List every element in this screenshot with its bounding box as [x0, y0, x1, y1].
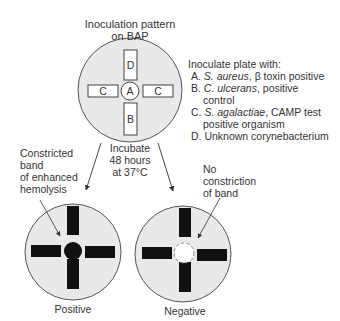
diagram-title: Inoculation pattern on BAP — [70, 18, 190, 42]
incubation-note: Incubate 48 hours at 37°C — [100, 142, 160, 178]
positive-annotation: Constricted band of enhanced hemolysis — [20, 147, 100, 195]
label-a: A — [121, 85, 139, 97]
positive-label: Positive — [43, 303, 103, 315]
label-c-left: C — [88, 85, 118, 97]
legend-item-a: A. S. aureus, β toxin positive — [188, 70, 338, 82]
enhanced-hemolysis-zone — [64, 242, 82, 260]
arrow-to-negative — [158, 143, 173, 191]
legend-item-d: D. Unknown corynebacterium — [188, 130, 338, 142]
legend-item-b: B. C. ulcerans, positive — [188, 82, 338, 94]
inoculation-legend: Inoculate plate with: A. S. aureus, β to… — [188, 58, 338, 142]
label-b: B — [124, 113, 137, 125]
legend-item-c: C. S. agalactiae, CAMP test — [188, 106, 338, 118]
no-constriction-zone — [174, 243, 194, 263]
label-c-right: C — [143, 85, 173, 97]
positive-plate — [25, 204, 121, 300]
negative-plate — [135, 206, 231, 302]
label-d: D — [124, 59, 137, 71]
negative-label: Negative — [153, 305, 217, 317]
legend-heading: Inoculate plate with: — [188, 58, 338, 70]
negative-annotation: No constriction of band — [203, 163, 283, 199]
